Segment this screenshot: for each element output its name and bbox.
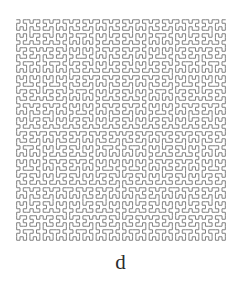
hilbert-curve-plot xyxy=(0,0,241,246)
hilbert-curve-panel xyxy=(0,0,241,246)
figure-root: d xyxy=(0,0,241,281)
subfigure-label: d xyxy=(0,246,241,281)
